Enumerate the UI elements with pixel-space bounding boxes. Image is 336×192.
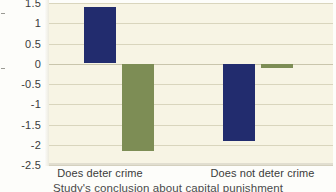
y-axis-tick-label-7: -2 [31,139,41,151]
y-axis-tick-label-1: 1 [35,17,41,29]
x-axis-tick-label-0: Does deter crime [30,167,170,179]
edge-tick-artifact [1,68,5,69]
gridline [49,84,333,85]
y-axis-tick-label-5: -1 [31,98,41,110]
y-axis-tick-label-4: -0.5 [21,78,41,90]
x-axis-title: Study's conclusion about capital punishm… [0,182,336,192]
plot-bottom-edge-shading [49,163,333,166]
plot-inner [49,3,333,165]
y-axis-tick-labels: 1.510.50-0.5-1-1.5-2-2.5 [0,0,45,192]
y-axis-tick-label-2: 0.5 [25,38,41,50]
edge-tick-artifact [1,13,5,14]
gridline [49,104,333,105]
plot-area [49,3,333,165]
x-axis-tick-label-1: Does not deter crime [190,167,335,179]
y-axis-tick-label-6: -1.5 [21,119,41,131]
gridline [49,125,333,126]
gridline [49,145,333,146]
y-axis-tick-label-0: 1.5 [25,0,41,9]
chart-screenshot: 1.510.50-0.5-1-1.5-2-2.5 Does deter crim… [0,0,336,192]
y-axis-tick-label-3: 0 [35,58,41,70]
bar-series-navy-0 [84,7,116,63]
bar-series-olive-0 [122,64,154,151]
gridline [49,3,333,4]
bar-series-navy-1 [223,64,255,141]
bar-series-olive-1 [261,64,293,68]
